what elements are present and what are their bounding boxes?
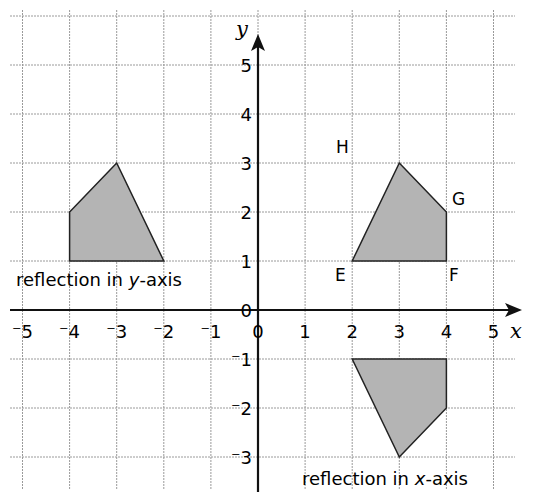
vertex-label-h: H <box>336 137 349 157</box>
reflection-x-label: reflection in x-axis <box>302 468 468 489</box>
y-tick-label: ⁻2 <box>231 398 252 419</box>
x-tick-label: ⁻5 <box>12 321 33 342</box>
shape-0 <box>352 163 446 261</box>
reflection-y-label: reflection in y-axis <box>16 269 182 290</box>
y-axis-label: y <box>235 17 249 41</box>
y-tick-label: ⁻1 <box>231 349 252 370</box>
x-axis-label: x <box>510 319 522 343</box>
x-tick-label: 4 <box>441 321 452 342</box>
x-tick-label: 5 <box>488 321 499 342</box>
x-tick-label: ⁻2 <box>153 321 174 342</box>
x-tick-label: 2 <box>346 321 357 342</box>
y-tick-label: 0 <box>241 300 252 321</box>
x-tick-label: ⁻4 <box>59 321 80 342</box>
axes <box>10 34 522 492</box>
y-tick-label: 3 <box>241 153 252 174</box>
y-tick-label: 1 <box>241 251 252 272</box>
x-tick-label: ⁻3 <box>106 321 127 342</box>
vertex-label-f: F <box>449 265 459 285</box>
y-tick-label: 5 <box>241 55 252 76</box>
y-tick-label: 4 <box>241 104 252 125</box>
y-tick-label: 2 <box>241 202 252 223</box>
x-tick-label: 1 <box>299 321 310 342</box>
x-tick-label: 3 <box>394 321 405 342</box>
shape-2 <box>352 359 446 457</box>
vertex-label-e: E <box>335 265 346 285</box>
vertex-label-g: G <box>452 189 465 209</box>
x-tick-label: ⁻1 <box>200 321 221 342</box>
y-tick-label: ⁻3 <box>231 447 252 468</box>
x-tick-label: 0 <box>252 321 263 342</box>
coordinate-grid-diagram: ⁻5⁻4⁻3⁻2⁻1012345543210⁻1⁻2⁻3 H G E F y x… <box>0 0 541 496</box>
